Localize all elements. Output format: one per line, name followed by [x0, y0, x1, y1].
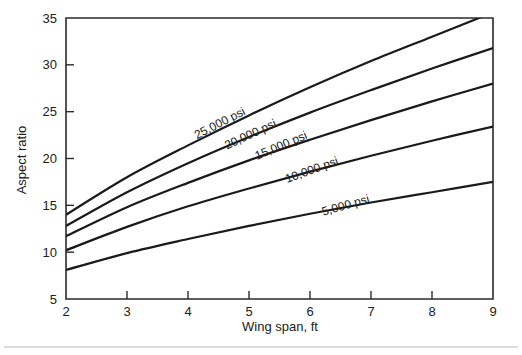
- x-tick-label: 4: [184, 304, 191, 319]
- x-axis-title: Wing span, ft: [242, 319, 318, 334]
- y-tick-label: 25: [43, 104, 57, 119]
- y-tick-label: 30: [43, 57, 57, 72]
- aspect-ratio-vs-wing-span-chart: 5101520253035 23456789 25,000 psi20,000 …: [0, 0, 522, 355]
- x-tick-label: 9: [489, 304, 496, 319]
- chart-figure: 5101520253035 23456789 25,000 psi20,000 …: [0, 0, 522, 355]
- x-tick-label: 6: [306, 304, 313, 319]
- chart-background: [0, 0, 522, 355]
- x-tick-label: 8: [428, 304, 435, 319]
- x-tick-label: 3: [123, 304, 130, 319]
- y-tick-label: 5: [50, 292, 57, 307]
- y-tick-label: 10: [43, 245, 57, 260]
- x-tick-label: 7: [367, 304, 374, 319]
- x-tick-label: 5: [245, 304, 252, 319]
- y-axis-title: Aspect ratio: [14, 126, 29, 195]
- y-tick-label: 35: [43, 11, 57, 26]
- x-tick-label: 2: [62, 304, 69, 319]
- y-tick-label: 15: [43, 198, 57, 213]
- y-tick-label: 20: [43, 151, 57, 166]
